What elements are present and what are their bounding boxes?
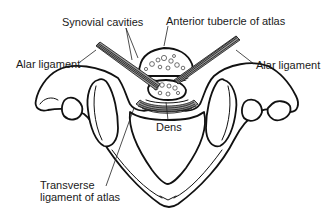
label-anterior-tubercle: Anterior tubercle of atlas xyxy=(166,15,286,27)
label-alar-ligament-right: Alar ligament xyxy=(256,59,320,71)
label-transverse-ligament-line2: ligament of atlas xyxy=(40,191,121,203)
label-alar-ligament-left: Alar ligament xyxy=(16,58,80,70)
label-synovial-cavities: Synovial cavities xyxy=(62,16,144,28)
atlas-diagram: Synovial cavities Anterior tubercle of a… xyxy=(0,0,329,220)
label-transverse-ligament-line1: Transverse xyxy=(40,179,95,191)
label-dens: Dens xyxy=(156,121,182,133)
